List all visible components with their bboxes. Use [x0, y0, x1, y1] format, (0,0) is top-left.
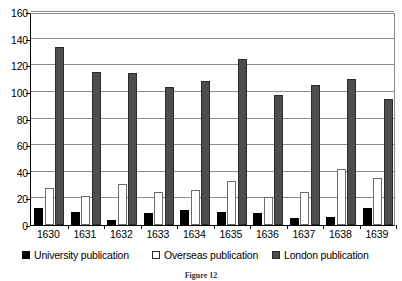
legend-item-london: London publication: [272, 250, 369, 261]
bar-group-1635: [214, 14, 251, 225]
x-axis-label-1638: 1638: [320, 229, 360, 240]
bar-group-1631: [68, 14, 105, 225]
y-axis-tick-mark-140: [26, 40, 30, 41]
legend-swatch-university-icon: [22, 251, 30, 259]
bar-group-1637: [287, 14, 324, 225]
bar-university-1639: [363, 208, 372, 225]
y-axis-tick-label-0: 0: [2, 221, 28, 232]
y-axis-tick-label-120: 120: [2, 61, 28, 72]
bar-overseas-1636: [264, 197, 273, 225]
x-axis-label-1633: 1633: [138, 229, 178, 240]
legend-label-university: University publication: [34, 250, 129, 261]
x-axis-label-1636: 1636: [247, 229, 287, 240]
bar-university-1635: [217, 212, 226, 225]
figure-caption: Figure 12: [0, 272, 402, 281]
bar-group-1638: [323, 14, 360, 225]
legend-label-london: London publication: [284, 250, 369, 261]
bar-group-1630: [31, 14, 68, 225]
bar-group-1636: [250, 14, 287, 225]
bar-university-1630: [34, 208, 43, 225]
legend-item-overseas: Overseas publication: [152, 250, 258, 261]
bar-overseas-1634: [191, 190, 200, 225]
bar-overseas-1637: [300, 192, 309, 225]
bar-london-1638: [347, 79, 356, 225]
bar-university-1633: [144, 213, 153, 225]
x-axis-label-1639: 1639: [357, 229, 397, 240]
x-axis-label-1631: 1631: [65, 229, 105, 240]
bar-london-1637: [311, 85, 320, 225]
x-axis-label-1630: 1630: [28, 229, 68, 240]
bar-london-1639: [384, 99, 393, 225]
bar-overseas-1633: [154, 192, 163, 225]
y-axis-tick-label-160: 160: [2, 8, 28, 19]
legend-swatch-overseas-icon: [152, 251, 160, 259]
x-axis-labels: 1630163116321633163416351636163716381639: [30, 229, 395, 243]
y-axis-tick-label-20: 20: [2, 194, 28, 205]
bar-university-1632: [107, 220, 116, 225]
y-axis-tick-label-40: 40: [2, 168, 28, 179]
y-axis-tick-mark-20: [26, 199, 30, 200]
bar-university-1634: [180, 210, 189, 225]
y-axis-tick-mark-80: [26, 120, 30, 121]
x-axis-label-1635: 1635: [211, 229, 251, 240]
bar-london-1632: [128, 73, 137, 225]
bar-group-1633: [141, 14, 178, 225]
bar-overseas-1638: [337, 169, 346, 225]
bar-london-1635: [238, 59, 247, 225]
bars-layer: [31, 14, 394, 225]
y-axis-tick-label-100: 100: [2, 88, 28, 99]
x-axis-label-1632: 1632: [101, 229, 141, 240]
y-axis-tick-label-140: 140: [2, 35, 28, 46]
bar-university-1637: [290, 218, 299, 225]
bar-group-1632: [104, 14, 141, 225]
chart-legend: University publicationOverseas publicati…: [0, 250, 402, 264]
bar-overseas-1639: [373, 178, 382, 225]
y-axis-tick-label-60: 60: [2, 141, 28, 152]
plot-area: [30, 13, 395, 226]
bar-university-1631: [71, 212, 80, 225]
bar-london-1630: [55, 47, 64, 225]
bar-group-1639: [360, 14, 397, 225]
gridline-160: [31, 11, 394, 12]
legend-item-university: University publication: [22, 250, 129, 261]
y-axis-tick-mark-60: [26, 146, 30, 147]
bar-overseas-1635: [227, 181, 236, 225]
bar-group-1634: [177, 14, 214, 225]
bar-london-1631: [92, 72, 101, 225]
bar-university-1638: [326, 217, 335, 225]
legend-label-overseas: Overseas publication: [164, 250, 258, 261]
bar-chart-figure: 020406080100120140160 163016311632163316…: [0, 0, 402, 281]
bar-london-1634: [201, 81, 210, 225]
bar-university-1636: [253, 213, 262, 225]
y-axis-tick-mark-40: [26, 173, 30, 174]
y-axis-tick-label-80: 80: [2, 115, 28, 126]
bar-overseas-1632: [118, 184, 127, 225]
y-axis-tick-mark-100: [26, 93, 30, 94]
x-axis-label-1637: 1637: [284, 229, 324, 240]
bar-overseas-1631: [81, 196, 90, 225]
bar-london-1633: [165, 87, 174, 225]
y-axis-tick-mark-160: [26, 13, 30, 14]
x-axis-label-1634: 1634: [174, 229, 214, 240]
bar-london-1636: [274, 95, 283, 225]
y-axis-tick-mark-0: [26, 226, 30, 227]
y-axis-tick-mark-120: [26, 66, 30, 67]
bar-overseas-1630: [45, 188, 54, 225]
legend-swatch-london-icon: [272, 251, 280, 259]
